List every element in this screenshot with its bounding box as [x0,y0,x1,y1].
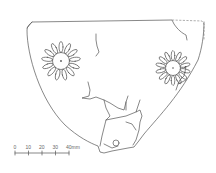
scale-tick-20: 20 [39,144,45,150]
scale-tick-0: 0 [14,144,17,150]
hole [113,140,119,146]
fracture-right [176,66,186,90]
scale-bar: 0 10 20 30 40mm [14,144,80,155]
fracture-lines-lower [82,82,142,148]
rosette-left [41,42,80,81]
rim-restored-dashed [172,20,204,40]
scale-tick-30: 30 [53,144,59,150]
scale-tick-10: 10 [26,144,32,150]
crack-line [96,34,99,56]
sherd-outline [27,22,204,153]
scale-tick-40mm: 40mm [66,144,80,150]
rim-line [27,20,187,40]
